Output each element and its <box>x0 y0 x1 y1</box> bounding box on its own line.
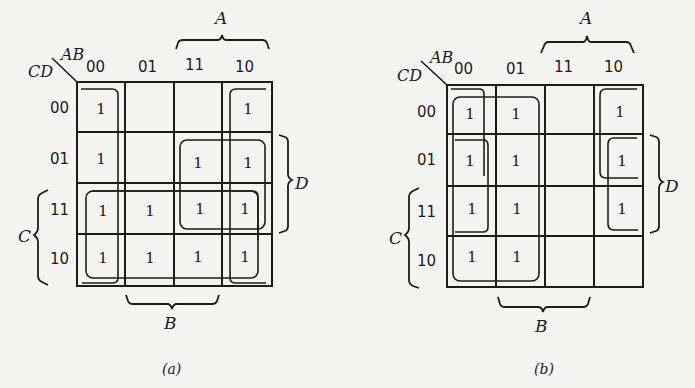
kmap-cell: 1 <box>448 232 496 282</box>
kmap-b: A D C B AB CD 00 01 11 10 00 01 11 10 1 … <box>348 0 695 388</box>
brace-label-c: C <box>18 226 31 246</box>
kmap-cell: 1 <box>446 89 494 139</box>
kmap-cell: 1 <box>598 136 646 186</box>
col-var-label: AB <box>430 48 453 67</box>
kmap-cell: 1 <box>596 87 644 137</box>
col-header: 00 <box>86 58 105 76</box>
row-header: 01 <box>417 151 436 169</box>
kmap-cell: 1 <box>126 186 174 236</box>
kmap-cell: 1 <box>126 233 174 283</box>
kmap-cell: 1 <box>492 89 540 139</box>
figure-caption: (b) <box>534 361 554 377</box>
kmap-cell: 1 <box>221 232 269 282</box>
kmap-cell: 1 <box>174 138 222 188</box>
row-header: 10 <box>417 252 436 270</box>
row-header: 11 <box>417 203 436 221</box>
kmap-cell: 1 <box>598 184 646 234</box>
kmap-cell: 1 <box>174 232 222 282</box>
row-header: 01 <box>50 150 69 168</box>
col-header: 10 <box>604 58 623 76</box>
kmap-cell: 1 <box>79 233 127 283</box>
brace-label-d: D <box>665 176 679 196</box>
row-header: 11 <box>50 201 69 219</box>
kmap-cell <box>125 84 173 134</box>
kmap-cell <box>174 84 222 134</box>
kmap-cell: 1 <box>176 184 224 234</box>
col-header: 10 <box>235 58 254 76</box>
brace-label-c: C <box>389 228 402 248</box>
figure-caption: (a) <box>162 361 181 377</box>
kmap-cell: 1 <box>77 84 125 134</box>
kmap-cell: 1 <box>493 184 541 234</box>
kmap-cell <box>545 184 593 234</box>
kmap-cell: 1 <box>221 184 269 234</box>
col-var-label: AB <box>61 45 84 64</box>
col-header: 01 <box>138 58 157 76</box>
brace-label-a: A <box>215 8 227 28</box>
kmap-cell: 1 <box>492 136 540 186</box>
brace-label-b: B <box>535 316 548 336</box>
row-var-label: CD <box>397 66 422 85</box>
kmap-cell <box>545 89 593 139</box>
row-header: 00 <box>417 103 436 121</box>
brace-label-b: B <box>164 313 177 333</box>
kmap-cell <box>596 232 644 282</box>
kmap-cell: 1 <box>493 232 541 282</box>
kmap-cell: 1 <box>79 186 127 236</box>
col-header: 11 <box>185 56 204 74</box>
col-header: 00 <box>454 60 473 78</box>
kmap-cell: 1 <box>224 138 272 188</box>
row-header: 00 <box>50 99 69 117</box>
row-var-label: CD <box>28 62 53 81</box>
kmap-cell: 1 <box>224 84 272 134</box>
kmap-cell <box>545 232 593 282</box>
row-header: 10 <box>50 250 69 268</box>
col-header: 01 <box>506 60 525 78</box>
kmap-cell: 1 <box>446 136 494 186</box>
kmap-a: A D C B AB CD 00 01 11 10 00 01 11 10 1 … <box>0 0 347 388</box>
col-header: 11 <box>554 58 573 76</box>
kmap-cell <box>125 134 173 184</box>
brace-label-d: D <box>295 173 309 193</box>
kmap-cell: 1 <box>448 184 496 234</box>
kmap-cell <box>545 136 593 186</box>
brace-label-a: A <box>580 8 592 28</box>
kmap-cell: 1 <box>77 134 125 184</box>
